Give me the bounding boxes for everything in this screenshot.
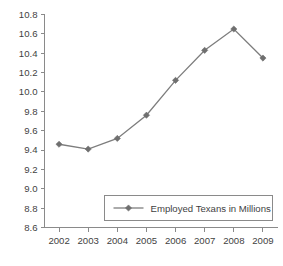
x-tick-label: 2004 [107,235,129,246]
x-tick-label: 2005 [136,235,157,246]
x-tick-label: 2009 [252,235,273,246]
x-tick-label: 2008 [223,235,244,246]
line-chart: 8.68.89.09.29.49.69.810.010.210.410.610.… [0,0,283,266]
y-tick-group: 8.68.89.09.29.49.69.810.010.210.410.610.… [19,9,45,233]
series-employed-texans [56,26,266,152]
y-tick-label: 9.4 [24,144,38,155]
y-tick-label: 10.8 [19,9,38,20]
y-tick-label: 8.8 [24,203,37,214]
x-tick-group: 20022003200420052006200720082009 [48,228,273,246]
x-tick-label: 2003 [78,235,99,246]
y-axis: 8.68.89.09.29.49.69.810.010.210.410.610.… [19,9,45,233]
y-tick-label: 9.0 [24,183,37,194]
y-tick-label: 10.4 [19,48,38,59]
series-line [59,29,263,149]
chart-legend: Employed Texans in Millions [105,196,273,221]
y-tick-label: 10.2 [19,67,38,78]
y-tick-label: 10.0 [19,86,38,97]
y-tick-label: 9.2 [24,164,37,175]
y-tick-label: 8.6 [24,222,37,233]
y-tick-label: 9.8 [24,106,37,117]
legend-label: Employed Texans in Millions [151,203,272,214]
x-tick-label: 2006 [165,235,186,246]
y-tick-label: 10.6 [19,28,38,39]
x-axis: 20022003200420052006200720082009 [45,228,278,246]
x-tick-label: 2002 [48,235,69,246]
data-point-marker [56,141,62,147]
chart-canvas: 8.68.89.09.29.49.69.810.010.210.410.610.… [0,0,283,266]
data-point-marker [85,146,91,152]
x-tick-label: 2007 [194,235,215,246]
y-tick-label: 9.6 [24,125,37,136]
